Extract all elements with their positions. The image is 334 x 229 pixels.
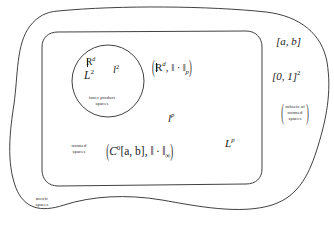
note-subsets-of-normed-spaces: ( subsets of normed spaces ) [264, 104, 326, 123]
close-paren-subsets: ) [306, 101, 309, 126]
label-c0-sup-norm-pair: (C0[a, b], ‖ · ‖∞) [106, 145, 174, 158]
sup-norm-bars: ‖ · ‖ [150, 145, 165, 157]
big-l2-exponent: 2 [90, 68, 94, 76]
c0-base: C [109, 145, 117, 157]
label-unit-square: [0, 1]2 [272, 71, 300, 83]
p-norm-bars: ‖ · ‖ [171, 61, 185, 73]
close-paren-c0: ) [171, 143, 174, 163]
subsets-note-lines: subsets of normed spaces [285, 104, 305, 123]
interval-ab-text: [a, b] [276, 35, 301, 47]
blackboard-r-glyph-2: R [155, 62, 162, 74]
caption-metric-line2: spaces [22, 202, 62, 208]
big-lp-exponent: p [231, 136, 234, 143]
label-big-lp: Lp [225, 138, 235, 150]
little-l2-exponent: 2 [116, 63, 119, 70]
space-hierarchy-diagram: Rd L2 l2 inner product spaces (Rd, ‖ · ‖… [0, 0, 334, 229]
caption-metric-spaces: metric spaces [22, 196, 62, 208]
label-little-l2: l2 [113, 64, 119, 75]
caption-normed-line2: spaces [57, 149, 101, 155]
little-lp-exponent: p [171, 111, 174, 118]
caption-normed-spaces: normed spaces [57, 143, 101, 155]
label-interval-ab: [a, b] [276, 36, 301, 48]
close-paren-rd: ) [189, 59, 192, 78]
subsets-note-line3: spaces [285, 116, 305, 122]
label-rd-inner: Rd [86, 58, 95, 68]
c0-interval: [a, b] [120, 145, 144, 157]
open-paren-subsets: ( [281, 101, 284, 126]
label-rd-p-norm-pair: (Rd, ‖ · ‖p) [152, 62, 192, 74]
caption-inner-product-spaces: inner product spaces [76, 95, 128, 107]
unit-square-base: [0, 1] [272, 70, 297, 82]
unit-square-exponent: 2 [297, 69, 300, 76]
open-paren-c0: ( [106, 143, 109, 163]
caption-inner-line2: spaces [76, 101, 128, 107]
label-big-l2: L2 [84, 69, 94, 81]
blackboard-r-glyph: R [86, 58, 92, 68]
middle-rounded-rect-normed-spaces [42, 31, 262, 186]
rd-exponent: d [92, 56, 95, 62]
label-little-lp: lp [168, 113, 174, 125]
